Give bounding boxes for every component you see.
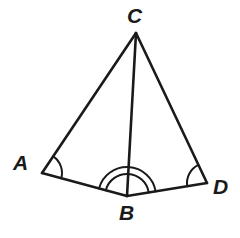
angle-mark-A: [53, 156, 62, 178]
vertex-label-c: C: [127, 5, 142, 26]
segment-CB: [127, 33, 136, 196]
geometry-figure: A B C D: [0, 0, 240, 238]
segment-BD: [127, 183, 207, 196]
vertex-label-b: B: [119, 202, 134, 223]
vertex-label-a: A: [13, 152, 28, 173]
segment-CA: [42, 33, 136, 173]
segment-AB: [42, 173, 127, 196]
vertex-label-d: D: [213, 176, 228, 197]
segments-group: [42, 33, 207, 196]
segment-CD: [136, 33, 207, 183]
angle-mark-D: [187, 165, 198, 186]
